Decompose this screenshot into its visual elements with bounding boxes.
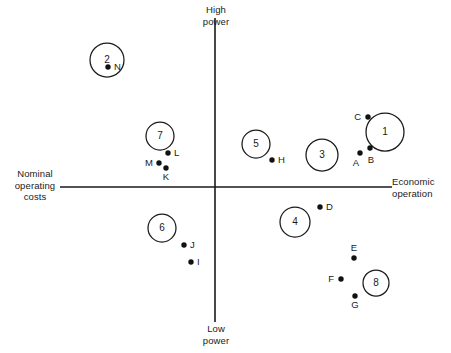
data-point-label: H <box>278 154 285 165</box>
data-point-H[interactable]: H <box>269 154 285 165</box>
data-point-M[interactable]: M <box>145 157 162 168</box>
data-point-label: A <box>353 157 360 168</box>
data-point-label: L <box>174 147 179 158</box>
group-number-label: 7 <box>157 130 163 141</box>
data-point-dot <box>367 145 372 150</box>
group-circles-layer: 12345678 <box>90 43 404 296</box>
data-point-dot <box>156 160 161 165</box>
data-point-dot <box>338 276 343 281</box>
data-points-layer: ABCDEFGHIJKLMN <box>105 61 374 310</box>
quadrant-chart-canvas: 12345678 ABCDEFGHIJKLMN High power Low p… <box>0 0 451 353</box>
data-point-label: I <box>197 256 200 267</box>
group-number-label: 5 <box>253 138 259 149</box>
axis-label-high-power: High power <box>181 4 251 27</box>
data-point-dot <box>105 64 110 69</box>
data-point-L[interactable]: L <box>165 147 179 158</box>
axis-label-economic-operation: Economic operation <box>392 176 450 199</box>
data-point-dot <box>365 114 370 119</box>
data-point-label: E <box>351 242 357 253</box>
group-number-label: 3 <box>319 149 325 160</box>
axis-label-nominal-operating-costs: Nominal operating costs <box>4 168 66 203</box>
axis-label-low-power: Low power <box>181 323 251 346</box>
data-point-label: K <box>163 171 170 182</box>
axes-group <box>60 18 392 322</box>
data-point-label: B <box>368 154 374 165</box>
data-point-E[interactable]: E <box>351 242 357 261</box>
group-number-label: 1 <box>382 126 388 137</box>
group-circle-3[interactable]: 3 <box>306 139 338 171</box>
group-circle-1[interactable]: 1 <box>366 113 404 151</box>
data-point-F[interactable]: F <box>328 273 344 284</box>
group-circle-5[interactable]: 5 <box>242 130 270 158</box>
data-point-label: D <box>326 201 333 212</box>
data-point-K[interactable]: K <box>163 165 170 182</box>
data-point-J[interactable]: J <box>181 239 195 250</box>
data-point-dot <box>181 242 186 247</box>
data-point-dot <box>351 255 356 260</box>
data-point-dot <box>352 293 357 298</box>
data-point-dot <box>188 259 193 264</box>
group-number-label: 6 <box>159 222 165 233</box>
data-point-dot <box>357 150 362 155</box>
group-number-label: 4 <box>292 216 298 227</box>
data-point-label: G <box>351 299 358 310</box>
data-point-G[interactable]: G <box>351 293 358 310</box>
data-point-label: N <box>114 61 121 72</box>
group-circle-7[interactable]: 7 <box>146 122 174 150</box>
data-point-label: M <box>145 157 153 168</box>
data-point-B[interactable]: B <box>367 145 374 165</box>
data-point-label: J <box>190 239 195 250</box>
group-number-label: 2 <box>104 54 110 65</box>
data-point-dot <box>317 204 322 209</box>
data-point-dot <box>163 165 168 170</box>
group-number-label: 8 <box>373 277 379 288</box>
data-point-I[interactable]: I <box>188 256 199 267</box>
data-point-dot <box>269 157 274 162</box>
data-point-label: C <box>354 111 361 122</box>
data-point-dot <box>165 150 170 155</box>
data-point-D[interactable]: D <box>317 201 333 212</box>
group-circle-6[interactable]: 6 <box>148 214 176 242</box>
group-circle-4[interactable]: 4 <box>280 207 310 237</box>
scatter-plot-svg: 12345678 ABCDEFGHIJKLMN <box>0 0 451 353</box>
data-point-A[interactable]: A <box>353 150 363 168</box>
data-point-C[interactable]: C <box>354 111 371 122</box>
data-point-label: F <box>328 273 334 284</box>
group-circle-8[interactable]: 8 <box>363 270 389 296</box>
